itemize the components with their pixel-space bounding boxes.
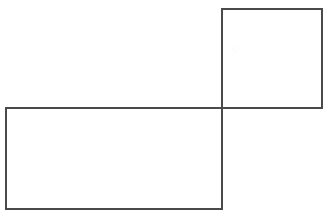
figure-canvas xyxy=(0,0,329,221)
square-shape xyxy=(222,9,322,108)
figure-svg xyxy=(0,0,329,221)
rectangle-shape xyxy=(6,108,222,209)
